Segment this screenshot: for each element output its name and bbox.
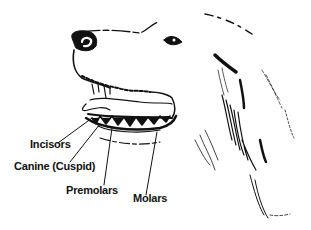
label-incisors: Incisors [30,138,71,150]
label-molars: Molars [133,192,167,204]
label-canine: Canine (Cuspid) [14,160,95,172]
dog-teeth-diagram: Incisors Canine (Cuspid) Premolars Molar… [0,0,311,230]
label-premolars: Premolars [66,184,118,196]
